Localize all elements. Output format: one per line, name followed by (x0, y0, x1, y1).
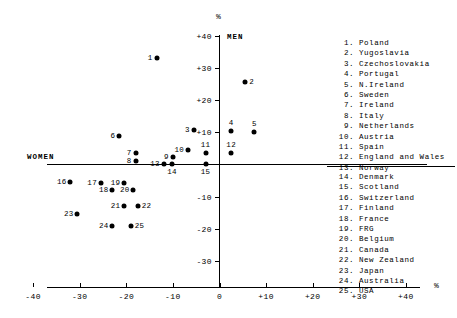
data-point-label: 16 (57, 178, 67, 186)
data-point-label: 12 (226, 141, 236, 149)
data-point-marker[interactable] (121, 180, 126, 185)
legend-item-name: N.Ireland (354, 80, 404, 90)
legend-item-name: Australia (354, 276, 404, 286)
legend-item-number: 24. (333, 276, 354, 286)
y-tick-label: +40 (182, 32, 212, 41)
legend-item-number: 17. (333, 203, 354, 213)
data-point-label: 18 (99, 186, 109, 194)
legend-item: 11.Spain (333, 142, 445, 152)
legend-item-name: Austria (354, 132, 394, 142)
legend-item-name: England and Wales (354, 152, 445, 162)
y-tick-mark (215, 229, 219, 230)
data-point-marker[interactable] (169, 161, 174, 166)
data-point-label: 25 (135, 222, 145, 230)
data-point-marker[interactable] (133, 151, 138, 156)
legend-item-number: 9. (333, 121, 354, 131)
data-point-label: 2 (249, 78, 254, 86)
data-point-label: 17 (87, 179, 97, 187)
legend-item: 1.Poland (333, 38, 445, 48)
data-point-label: 10 (174, 146, 184, 154)
legend-item-number: 4. (333, 69, 354, 79)
legend-item-name: Netherlands (354, 121, 415, 131)
legend-item-name: Finland (354, 203, 394, 213)
x-tick-label: -40 (25, 292, 41, 301)
legend-item: 2.Yugoslavia (333, 48, 445, 58)
data-point-marker[interactable] (110, 187, 115, 192)
legend-item-name: Ireland (354, 100, 394, 110)
legend-item-number: 12. (333, 152, 354, 162)
data-point-marker[interactable] (133, 158, 138, 163)
legend-item: 14.Denmark (333, 172, 415, 182)
data-point-label: 4 (229, 119, 234, 127)
data-point-marker[interactable] (131, 188, 136, 193)
data-point-marker[interactable] (135, 203, 140, 208)
legend-item: 17.Finland (333, 203, 415, 213)
data-point-label: 23 (64, 210, 74, 218)
data-point-marker[interactable] (117, 133, 122, 138)
legend-item-number: 19. (333, 224, 354, 234)
legend-item-name: New Zealand (354, 255, 415, 265)
legend-item: 5.N.Ireland (333, 80, 445, 90)
women-quadrant-label: WOMEN (27, 153, 55, 161)
x-tick-mark (80, 283, 81, 287)
data-point-label: 22 (142, 202, 152, 210)
legend-item: 10.Austria (333, 132, 445, 142)
legend-item-name: Canada (354, 245, 389, 255)
legend-item-name: Poland (354, 38, 389, 48)
legend-item-number: 16. (333, 193, 354, 203)
data-point-marker[interactable] (98, 180, 103, 185)
data-point-label: 14 (167, 168, 177, 176)
legend-item-number: 22. (333, 255, 354, 265)
legend-item-number: 11. (333, 142, 354, 152)
x-tick-mark (126, 283, 127, 287)
legend-item-name: France (354, 214, 389, 224)
y-axis-line (219, 35, 220, 287)
data-point-marker[interactable] (252, 130, 257, 135)
data-point-label: 19 (111, 179, 121, 187)
legend-item-number: 10. (333, 132, 354, 142)
legend-item-number: 15. (333, 182, 354, 192)
data-point-marker[interactable] (161, 161, 166, 166)
data-point-marker[interactable] (243, 80, 248, 85)
data-point-label: 11 (201, 141, 211, 149)
legend-item: 7.Ireland (333, 100, 445, 110)
legend-item: 3.Czechoslovakia (333, 59, 445, 69)
legend-list-bottom: 14.Denmark15.Scotland16.Switzerland17.Fi… (333, 172, 415, 297)
legend-item-number: 2. (333, 48, 354, 58)
data-point-marker[interactable] (75, 211, 80, 216)
legend-item-name: Czechoslovakia (354, 59, 430, 69)
x-tick-mark (266, 283, 267, 287)
legend-item: 20.Belgium (333, 234, 415, 244)
legend-item: 16.Switzerland (333, 193, 415, 203)
legend-item: 15.Scotland (333, 182, 415, 192)
legend-item-name: Scotland (354, 182, 399, 192)
legend-item-number: 8. (333, 111, 354, 121)
data-point-marker[interactable] (185, 148, 190, 153)
data-point-marker[interactable] (229, 129, 234, 134)
legend-item: 21.Canada (333, 245, 415, 255)
legend-item-number: 25. (333, 286, 354, 296)
x-tick-label: -20 (118, 292, 134, 301)
legend-list-top: 1.Poland2.Yugoslavia3.Czechoslovakia4.Po… (333, 38, 445, 173)
legend-item-name: Japan (354, 266, 384, 276)
data-point-marker[interactable] (229, 151, 234, 156)
data-point-marker[interactable] (203, 151, 208, 156)
data-point-marker[interactable] (203, 161, 208, 166)
data-point-marker[interactable] (191, 127, 196, 132)
legend-item: 18.France (333, 214, 415, 224)
data-point-marker[interactable] (110, 223, 115, 228)
legend-item-number: 20. (333, 234, 354, 244)
men-quadrant-label: MEN (227, 33, 244, 41)
legend-item-name: Yugoslavia (354, 48, 410, 58)
data-point-marker[interactable] (170, 155, 175, 160)
legend-item-number: 14. (333, 172, 354, 182)
data-point-label: 8 (127, 157, 132, 165)
legend-item: 6.Sweden (333, 90, 445, 100)
data-point-label: 15 (201, 168, 211, 176)
legend-item-number: 1. (333, 38, 354, 48)
data-point-marker[interactable] (121, 203, 126, 208)
data-point-marker[interactable] (128, 223, 133, 228)
data-point-marker[interactable] (154, 56, 159, 61)
legend-item: 12.England and Wales (333, 152, 445, 162)
data-point-marker[interactable] (68, 180, 73, 185)
